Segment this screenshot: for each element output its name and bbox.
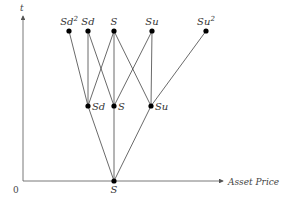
- edge-root-s-mid-sd: [88, 106, 114, 181]
- node-label-top-su: Su: [145, 16, 158, 27]
- diagram-canvas: t Asset Price 0 Sd2SdSSuSu2SdSSuS: [0, 0, 291, 204]
- node-label-mid-su: Su: [155, 101, 168, 112]
- node-label-root-s: S: [111, 184, 118, 195]
- trinomial-tree-diagram: t Asset Price 0 Sd2SdSSuSu2SdSSuS: [0, 0, 291, 204]
- node-mid-su: [148, 103, 153, 108]
- node-label-top-sd: Sd: [81, 16, 94, 27]
- node-label-mid-s: S: [118, 101, 125, 112]
- node-top-su2: [203, 28, 208, 33]
- node-label-top-s: S: [111, 16, 118, 27]
- edge-mid-su-top-su: [151, 31, 152, 106]
- edge-mid-sd-top-sd2: [69, 31, 88, 106]
- tree-nodes: Sd2SdSSuSu2SdSSuS: [60, 15, 215, 195]
- node-top-sd: [85, 28, 90, 33]
- node-top-s: [111, 28, 116, 33]
- node-mid-s: [111, 103, 116, 108]
- node-top-su: [149, 28, 154, 33]
- edge-root-s-mid-su: [114, 106, 151, 181]
- axes: t Asset Price 0: [13, 3, 279, 195]
- node-top-sd2: [66, 28, 71, 33]
- y-axis-label: t: [20, 3, 24, 13]
- node-label-mid-sd: Sd: [92, 101, 105, 112]
- edge-mid-su-top-su2: [151, 31, 206, 106]
- node-label-top-su2: Su2: [197, 15, 215, 27]
- node-label-top-sd2: Sd2: [60, 15, 78, 27]
- node-mid-sd: [85, 103, 90, 108]
- origin-label: 0: [13, 185, 19, 195]
- x-axis-label: Asset Price: [227, 177, 279, 187]
- node-root-s: [111, 178, 116, 183]
